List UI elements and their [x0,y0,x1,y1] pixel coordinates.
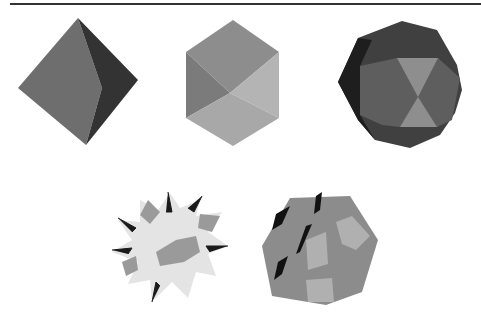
stellated-spike-3 [206,246,228,252]
octahedron [18,18,138,145]
truncated-solid [338,21,462,148]
rhombic-hexagon [186,20,279,146]
compound [262,192,378,305]
stellated [112,192,228,302]
compound-light-3 [306,278,334,302]
polyhedra-figure [0,0,481,324]
